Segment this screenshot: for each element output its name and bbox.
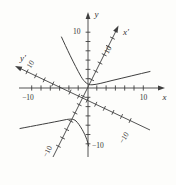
y-prime-axis-line xyxy=(21,69,151,130)
x-prime-arrowhead-icon xyxy=(113,26,118,33)
y-axis-tick-label-positive: 10 xyxy=(73,27,81,36)
x-axis-arrowhead-icon xyxy=(158,86,165,91)
ticks-y-prime-axis xyxy=(26,69,131,123)
x-axis-label: x xyxy=(162,92,167,102)
rotated-axes-hyperbola-figure: y x x′ y′ 10 −10 10 −10 10 −10 10 −10 xyxy=(0,0,176,185)
x-prime-tick-label-negative: −10 xyxy=(41,144,55,159)
y-axis-arrowhead-icon xyxy=(86,12,91,19)
x-axis-tick-label-positive: 10 xyxy=(140,93,148,102)
x-prime-tick-label-positive: 10 xyxy=(102,44,114,55)
hyperbola-upper-branch xyxy=(62,37,151,85)
y-axis-tick-label-negative: −10 xyxy=(92,141,104,150)
plot-svg: y x x′ y′ 10 −10 10 −10 10 −10 10 −10 xyxy=(0,0,176,185)
y-axis-label: y xyxy=(94,9,99,19)
y-prime-tick-label-negative: −10 xyxy=(117,130,131,145)
x-prime-axis-label: x′ xyxy=(122,27,130,37)
x-axis-tick-label-negative: −10 xyxy=(22,93,34,102)
hyperbola-lower-branch xyxy=(20,119,89,146)
y-prime-arrowhead-icon xyxy=(15,66,22,71)
y-prime-tick-label-positive: 10 xyxy=(25,58,37,69)
